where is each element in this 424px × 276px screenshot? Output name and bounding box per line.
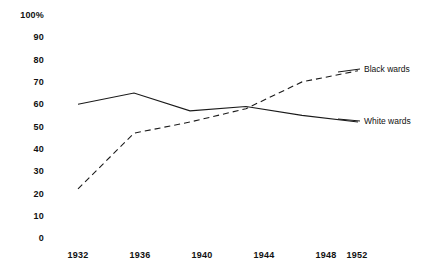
series-label-white-wards: White wards [364, 116, 411, 126]
chart-plot-area [0, 0, 424, 276]
series-line-black-wards [78, 71, 358, 189]
series-line-white-wards [78, 93, 358, 122]
chart-container: 100% 90 80 70 60 50 40 30 20 10 0 1932 1… [0, 0, 424, 276]
series-label-black-wards: Black wards [364, 64, 410, 74]
